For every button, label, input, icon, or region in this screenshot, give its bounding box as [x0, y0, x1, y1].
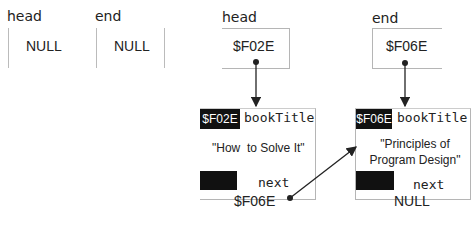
end-to-node-2-arrow [402, 60, 408, 106]
pointer-arrows [0, 0, 474, 227]
head-to-node-1-arrow [253, 59, 259, 106]
node-1-next-to-node-2-arrow [287, 147, 356, 201]
